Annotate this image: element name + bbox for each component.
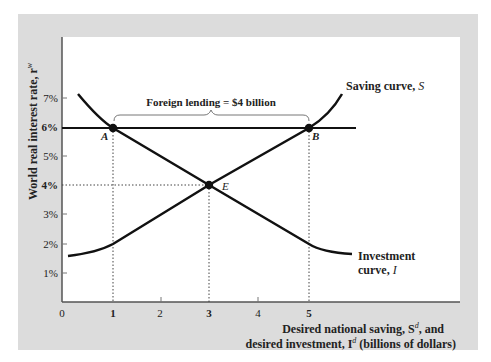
point-a-label: A [100,130,108,142]
x-tick-2: 2 [157,307,163,319]
point-e [205,181,213,189]
saving-curve-label: Saving curve, S [346,79,424,93]
point-a [109,124,117,132]
y-tick-7: 7% [43,92,58,104]
y-tick-2: 2% [43,238,58,250]
x-tick-1: 1 [110,307,116,319]
point-b-label: B [311,130,319,142]
x-axis-label-line1: Desired national saving, Sd, and [282,321,444,336]
chart: 1% 2% 3% 4% 5% 6% 7% 0 1 2 3 4 5 World r… [0,0,491,362]
y-tick-3: 3% [43,208,58,220]
investment-curve-label-line1: Investment [358,249,415,263]
x-tick-3: 3 [206,307,212,319]
y-tick-5: 5% [43,150,58,162]
y-tick-4: 4% [42,179,59,191]
x-tick-0: 0 [59,307,65,319]
x-tick-4: 4 [255,307,261,319]
point-e-label: E [221,180,229,192]
y-tick-1: 1% [43,267,58,279]
x-tick-5: 5 [306,307,312,319]
foreign-lending-label: Foreign lending = $4 billion [146,96,276,108]
x-axis-label-line2: desired investment, Id (billions of doll… [246,336,456,351]
y-axis-label: World real interest rate, rw [25,62,40,200]
y-tick-6: 6% [42,121,59,133]
investment-curve-label-line2: curve, I [358,263,398,277]
